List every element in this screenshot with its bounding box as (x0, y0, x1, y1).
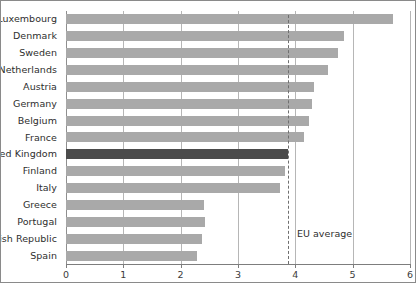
bar-row (66, 213, 410, 230)
tick-mark-0 (66, 264, 67, 268)
category-label-belgium: Belgium (18, 115, 57, 126)
category-label-united-kingdom: United Kingdom (0, 148, 57, 159)
bar-irish-republic (66, 234, 202, 244)
category-label-irish-republic: Irish Republic (0, 233, 57, 244)
bar-row (66, 78, 410, 95)
bar-row (66, 28, 410, 45)
category-label-netherlands: Netherlands (0, 64, 57, 75)
category-label-italy: Italy (36, 182, 57, 193)
category-label-denmark: Denmark (13, 30, 57, 41)
bar-row (66, 163, 410, 180)
bar-portugal (66, 217, 205, 227)
category-label-luxembourg: Luxembourg (0, 13, 57, 24)
x-tick-label: 5 (350, 269, 356, 280)
bar-germany (66, 99, 312, 109)
bar-row (66, 197, 410, 214)
bar-row (66, 230, 410, 247)
category-label-france: France (25, 132, 57, 143)
tick-mark-5 (353, 264, 354, 268)
bar-spain (66, 251, 197, 261)
bar-row (66, 180, 410, 197)
gridline-6 (410, 11, 411, 264)
x-tick-label: 2 (178, 269, 184, 280)
bar-sweden (66, 48, 338, 58)
tick-mark-3 (238, 264, 239, 268)
category-label-spain: Spain (30, 250, 57, 261)
category-label-portugal: Portugal (17, 216, 57, 227)
x-tick-label: 1 (120, 269, 126, 280)
bar-finland (66, 166, 285, 176)
bar-france (66, 132, 304, 142)
tick-mark-6 (410, 264, 411, 268)
bar-row (66, 45, 410, 62)
eu-average-label: EU average (297, 228, 352, 239)
tick-mark-1 (123, 264, 124, 268)
bar-row (66, 247, 410, 264)
bar-chart: 0123456 LuxembourgDenmarkSwedenNetherlan… (0, 0, 416, 283)
x-tick-label: 4 (292, 269, 298, 280)
category-label-germany: Germany (13, 98, 57, 109)
bar-row (66, 11, 410, 28)
x-tick-label: 6 (407, 269, 413, 280)
bar-row (66, 129, 410, 146)
eu-average-line (288, 15, 289, 264)
plot-area (66, 11, 410, 264)
bar-denmark (66, 31, 344, 41)
bar-row (66, 95, 410, 112)
bar-greece (66, 200, 204, 210)
tick-mark-4 (295, 264, 296, 268)
bar-row (66, 112, 410, 129)
x-tick-label: 0 (63, 269, 69, 280)
bar-italy (66, 183, 280, 193)
bar-luxembourg (66, 14, 393, 24)
bar-austria (66, 82, 314, 92)
bar-row (66, 62, 410, 79)
category-label-sweden: Sweden (19, 47, 57, 58)
bar-united-kingdom (66, 149, 288, 159)
bar-belgium (66, 116, 309, 126)
x-tick-label: 3 (235, 269, 241, 280)
bar-row (66, 146, 410, 163)
tick-mark-2 (181, 264, 182, 268)
category-label-austria: Austria (23, 81, 57, 92)
category-label-greece: Greece (23, 199, 57, 210)
category-label-finland: Finland (23, 165, 57, 176)
